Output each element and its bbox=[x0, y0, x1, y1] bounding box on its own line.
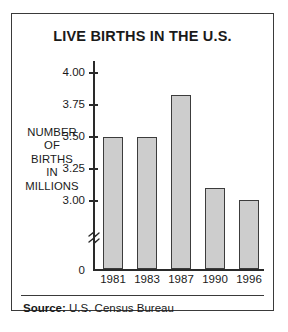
y-tick-mark bbox=[89, 136, 98, 137]
y-axis-origin-label: 0 bbox=[79, 265, 85, 277]
y-tick-mark bbox=[89, 72, 98, 73]
bar bbox=[205, 188, 225, 269]
y-tick-label: 3.75 bbox=[63, 99, 85, 111]
y-tick-label: 4.00 bbox=[63, 67, 85, 79]
y-tick-label: 3.50 bbox=[63, 131, 85, 143]
chart-title: LIVE BIRTHS IN THE U.S. bbox=[12, 28, 273, 44]
y-axis-title-line: MILLIONS bbox=[16, 180, 88, 193]
bar bbox=[171, 95, 191, 270]
bar bbox=[239, 200, 259, 270]
x-tick-label: 1990 bbox=[202, 273, 228, 285]
source-note: Source: U.S. Census Bureau bbox=[23, 302, 174, 314]
plot-area: 4.00 3.75 3.50 3.25 3.00 0 bbox=[93, 61, 263, 271]
source-value: U.S. Census Bureau bbox=[69, 302, 174, 314]
x-tick-label: 1983 bbox=[134, 273, 160, 285]
x-tick-label: 1996 bbox=[236, 273, 262, 285]
y-tick-mark bbox=[89, 104, 98, 105]
source-label: Source: bbox=[23, 302, 66, 314]
y-tick-mark bbox=[89, 200, 98, 201]
x-tick-label: 1987 bbox=[168, 273, 194, 285]
y-tick-mark bbox=[89, 168, 98, 169]
axis-break-icon bbox=[88, 229, 100, 249]
x-axis-line bbox=[93, 269, 264, 271]
source-divider bbox=[21, 295, 264, 296]
y-tick-label: 3.25 bbox=[63, 163, 85, 175]
chart-figure: LIVE BIRTHS IN THE U.S. NUMBER OF BIRTHS… bbox=[11, 13, 274, 311]
bar bbox=[103, 137, 123, 269]
y-tick-label: 3.00 bbox=[63, 195, 85, 207]
x-tick-label: 1981 bbox=[100, 273, 126, 285]
bar bbox=[137, 137, 157, 269]
